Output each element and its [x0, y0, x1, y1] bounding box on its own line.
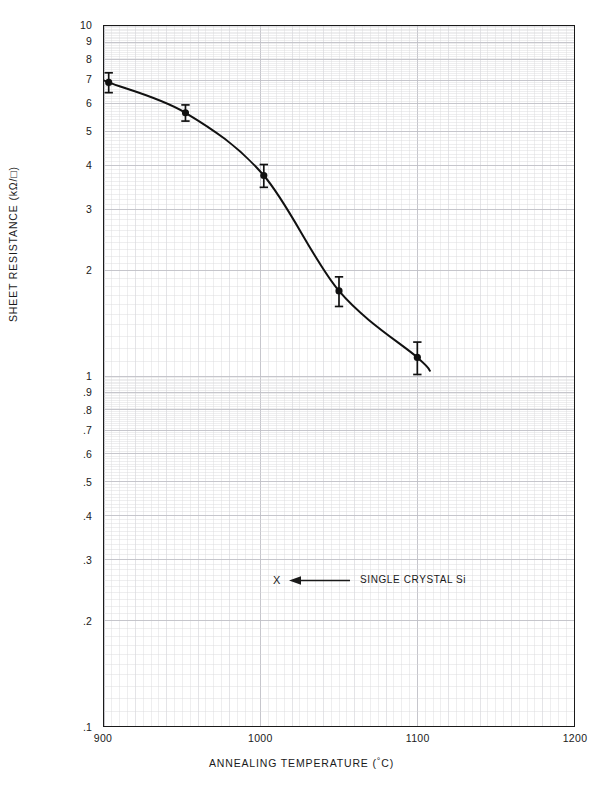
x-axis-title-tail: C): [381, 757, 394, 769]
x-tick-1100: 1100: [406, 733, 430, 744]
x-axis-tick-labels: 900100011001200: [0, 0, 603, 792]
single-crystal-si-annotation: X SINGLE CRYSTAL Si: [273, 573, 466, 587]
annotation-label: SINGLE CRYSTAL Si: [360, 575, 466, 585]
x-tick-1200: 1200: [563, 733, 588, 744]
x-marker: X: [273, 575, 281, 586]
left-arrow-icon: [289, 575, 351, 586]
x-axis-title-text: ANNEALING TEMPERATURE (: [209, 757, 377, 769]
x-tick-900: 900: [94, 733, 112, 744]
y-axis-title: SHEET RESISTANCE (kΩ/□): [7, 290, 19, 322]
x-tick-1000: 1000: [248, 733, 273, 744]
figure-container: 10987654321.9.8.7.6.5.4.3.2.1 9001000110…: [0, 0, 603, 792]
x-axis-title: ANNEALING TEMPERATURE (°C): [0, 756, 603, 769]
